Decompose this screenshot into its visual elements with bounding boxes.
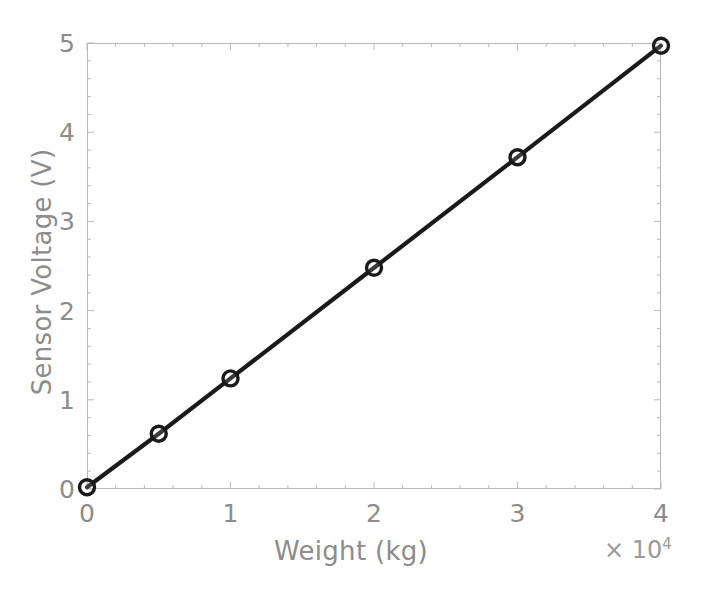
- x-tick-label: 4: [653, 501, 669, 526]
- x-tick-label: 3: [510, 501, 526, 526]
- data-point-marker: [80, 480, 95, 495]
- data-point-marker: [510, 150, 525, 165]
- x-tick-label: 2: [366, 501, 382, 526]
- y-axis-title-wrapper: Sensor Voltage (V): [27, 49, 57, 495]
- data-series-group: [80, 38, 669, 495]
- x-tick-label: 1: [223, 501, 239, 526]
- data-point-marker: [367, 260, 382, 275]
- chart-canvas: [0, 0, 702, 603]
- x-axis-exponent-label: × 104: [604, 536, 672, 564]
- data-point-marker: [151, 426, 166, 441]
- data-point-marker: [223, 371, 238, 386]
- chart-figure: 012345 01234 Weight (kg) Sensor Voltage …: [0, 0, 702, 603]
- y-axis-title: Sensor Voltage (V): [27, 149, 57, 396]
- exponent-mantissa: × 10: [604, 536, 662, 564]
- exponent-power: 4: [662, 535, 672, 553]
- x-axis-title: Weight (kg): [0, 536, 702, 566]
- x-tick-label: 0: [79, 501, 95, 526]
- data-point-marker: [654, 38, 669, 53]
